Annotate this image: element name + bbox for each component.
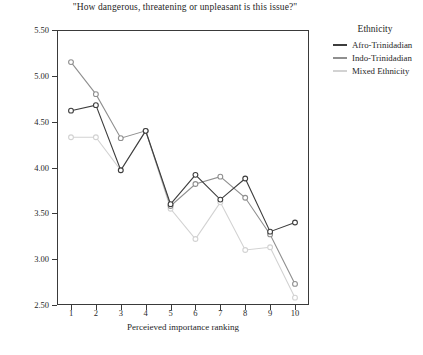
data-point (168, 202, 173, 207)
data-point (243, 195, 248, 200)
data-point (193, 182, 198, 187)
series-line (71, 62, 295, 284)
data-point (293, 282, 298, 287)
legend-label: Afro-Trinidadian (352, 40, 412, 50)
chart-root: "How dangerous, threatening or unpleasan… (0, 0, 423, 355)
legend-item[interactable]: Mixed Ethnicity (333, 65, 421, 77)
x-tick-mark (96, 305, 97, 310)
x-tick-mark (171, 305, 172, 310)
series-mixed-ethnicity (69, 128, 298, 300)
legend-line-icon (333, 57, 347, 59)
legend-item[interactable]: Afro-Trinidadian (333, 39, 421, 51)
x-tick-mark (146, 305, 147, 310)
x-tick-mark (245, 305, 246, 310)
x-tick-mark (220, 305, 221, 310)
data-point (243, 176, 248, 181)
data-point (93, 135, 98, 140)
legend-item[interactable]: Indo-Trinidadian (333, 52, 421, 64)
data-point (93, 92, 98, 97)
x-tick-mark (295, 305, 296, 310)
series-indo-trinidadian (69, 60, 298, 287)
data-point (118, 136, 123, 141)
legend-label: Indo-Trinidadian (352, 53, 412, 63)
data-point (193, 237, 198, 242)
x-axis-title: Perceieved importance ranking (57, 322, 309, 332)
legend: Ethnicity Afro-TrinidadianIndo-Trinidadi… (333, 24, 421, 78)
data-point (143, 128, 148, 133)
series-afro-trinidadian (69, 103, 298, 234)
data-point (218, 197, 223, 202)
x-tick-mark (71, 305, 72, 310)
data-point (118, 168, 123, 173)
x-tick-mark (270, 305, 271, 310)
data-point (268, 229, 273, 234)
data-point (69, 108, 74, 113)
x-tick-mark (195, 305, 196, 310)
data-point (293, 220, 298, 225)
legend-line-icon (333, 70, 347, 72)
data-point (69, 135, 74, 140)
series-line (71, 105, 295, 232)
legend-label: Mixed Ethnicity (352, 66, 409, 76)
data-point (218, 174, 223, 179)
x-tick-mark (121, 305, 122, 310)
data-point (193, 172, 198, 177)
legend-title: Ethnicity (329, 24, 421, 34)
legend-items: Afro-TrinidadianIndo-TrinidadianMixed Et… (333, 39, 421, 77)
data-point (69, 60, 74, 65)
data-point (268, 245, 273, 250)
data-point (93, 103, 98, 108)
data-point (243, 248, 248, 253)
data-point (293, 295, 298, 300)
legend-line-icon (333, 44, 347, 46)
